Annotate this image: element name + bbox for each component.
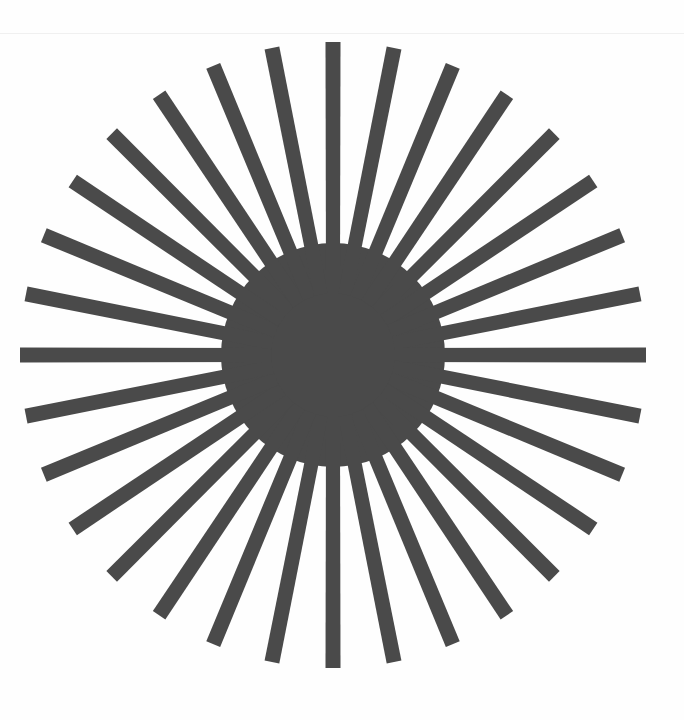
starburst-figure	[0, 0, 684, 720]
rays-group	[20, 42, 646, 668]
starburst-svg	[0, 0, 684, 720]
starburst-ray	[395, 348, 646, 363]
starburst-ray	[326, 42, 341, 293]
starburst-ray	[20, 348, 271, 363]
starburst-ray	[326, 417, 341, 668]
page-canvas	[0, 0, 684, 720]
